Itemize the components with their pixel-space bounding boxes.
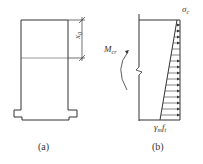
cross-section-shape bbox=[14, 20, 77, 120]
diagram-canvas bbox=[0, 0, 203, 164]
moment-arrow-icon bbox=[121, 50, 129, 90]
dimension-x0-label: x0 bbox=[72, 32, 83, 39]
moment-mcr-label: Mcr bbox=[104, 44, 117, 55]
caption-b: (b) bbox=[152, 141, 164, 152]
stress-hatch-arrows bbox=[161, 25, 180, 115]
caption-a: (a) bbox=[38, 141, 49, 152]
sigma-c-label: σc bbox=[182, 4, 189, 15]
gamma-m-ft-label: γmft bbox=[154, 122, 166, 133]
dimension-x0 bbox=[68, 17, 85, 61]
stress-diagram bbox=[136, 14, 180, 121]
